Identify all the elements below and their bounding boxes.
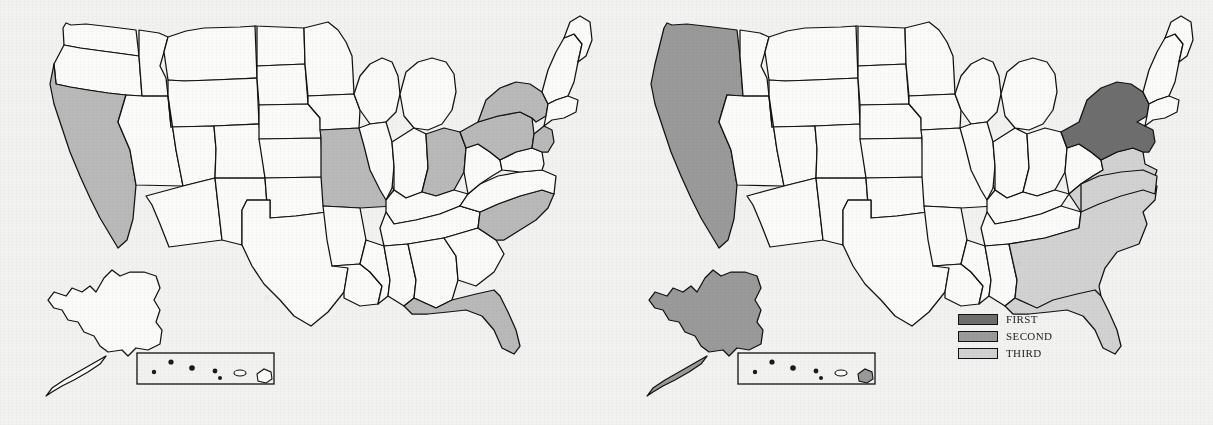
state-vermont-new-hampshire[interactable] xyxy=(1143,34,1183,104)
state-wisconsin[interactable] xyxy=(955,58,1001,124)
map-legend: FIRST SECOND THIRD xyxy=(958,312,1052,363)
legend-row-third: THIRD xyxy=(958,346,1052,361)
state-alaska[interactable] xyxy=(46,270,162,396)
hawaii-islands xyxy=(152,359,272,383)
state-wyoming[interactable] xyxy=(168,78,259,127)
state-north-dakota[interactable] xyxy=(856,26,906,66)
state-kansas[interactable] xyxy=(259,138,323,178)
left-map-svg xyxy=(8,0,608,425)
hawaii-inset-box xyxy=(137,353,274,384)
state-wyoming[interactable] xyxy=(769,78,860,127)
state-montana[interactable] xyxy=(765,26,858,81)
state-arizona[interactable] xyxy=(146,178,222,247)
state-idaho[interactable] xyxy=(740,30,769,96)
state-ohio[interactable] xyxy=(1023,128,1067,196)
state-alaska[interactable] xyxy=(647,270,763,396)
state-south-dakota[interactable] xyxy=(257,64,308,105)
island-hawaii-big[interactable] xyxy=(858,369,873,383)
state-idaho[interactable] xyxy=(139,30,168,96)
state-minnesota[interactable] xyxy=(304,22,354,96)
state-kansas[interactable] xyxy=(860,138,924,178)
figure-container: FIRST SECOND THIRD xyxy=(0,0,1213,425)
legend-swatch-first-icon xyxy=(958,314,998,325)
legend-swatch-third-icon xyxy=(958,348,998,359)
state-new-jersey[interactable] xyxy=(532,126,554,152)
left-map-panel xyxy=(8,0,608,425)
right-map-regions xyxy=(647,16,1193,396)
state-colorado[interactable] xyxy=(815,124,866,178)
legend-row-first: FIRST xyxy=(958,312,1052,327)
state-south-dakota[interactable] xyxy=(858,64,909,105)
right-map-panel xyxy=(612,0,1213,425)
legend-label-second: SECOND xyxy=(1006,331,1052,342)
state-ohio[interactable] xyxy=(422,128,466,196)
state-minnesota[interactable] xyxy=(905,22,955,96)
legend-row-second: SECOND xyxy=(958,329,1052,344)
hawaii-islands xyxy=(753,359,873,383)
legend-label-third: THIRD xyxy=(1006,348,1042,359)
state-michigan[interactable] xyxy=(400,58,456,130)
state-michigan[interactable] xyxy=(1001,58,1057,130)
legend-label-first: FIRST xyxy=(1006,314,1038,325)
state-wisconsin[interactable] xyxy=(354,58,400,124)
left-map-states xyxy=(46,16,592,396)
state-arizona[interactable] xyxy=(747,178,823,247)
state-vermont-new-hampshire[interactable] xyxy=(542,34,582,104)
state-montana[interactable] xyxy=(164,26,257,81)
right-map-svg xyxy=(612,0,1213,425)
hawaii-inset-box xyxy=(738,353,875,384)
legend-swatch-second-icon xyxy=(958,331,998,342)
state-colorado[interactable] xyxy=(214,124,265,178)
state-north-dakota[interactable] xyxy=(255,26,305,66)
